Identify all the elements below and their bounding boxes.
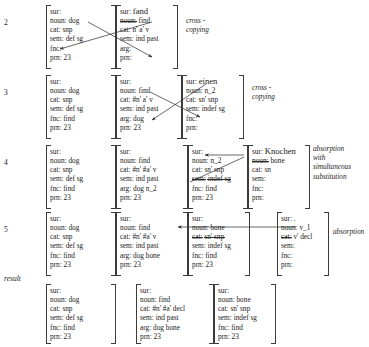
prop-line: sur: (120, 77, 179, 86)
prop-line: sem: def sg (50, 313, 113, 322)
prop-line: cat: sn' snp (192, 232, 247, 241)
proplist-dog[interactable]: sur: noun: dog cat: snp sem: def sg fnc:… (46, 284, 116, 344)
prop-line: sur: fand (120, 7, 175, 16)
prop-line: sur: einen (186, 77, 241, 86)
row-label-result: result (4, 274, 21, 283)
row-number: 4 (4, 158, 8, 167)
prop-line: sem: def sg (50, 174, 113, 183)
proplist-find[interactable]: sur: noun: find cat: #n' #a' v sem: ind … (116, 145, 188, 209)
proplist-n2[interactable]: sur: noun: n_2 cat: sn' snp sem: indef s… (188, 145, 248, 209)
row-note: absorption (333, 228, 364, 237)
prop-line: sem: def sg (50, 34, 113, 43)
prop-line: sem: def sg (50, 241, 113, 250)
prop-line: fnc: find (218, 323, 273, 332)
prop-line: noun: find (140, 295, 211, 304)
prop-line: cat: sn' snp (186, 95, 241, 104)
prop-line: noun: bone (192, 223, 247, 232)
prop-line: fnc: (50, 44, 113, 53)
prop-line: sur: Knochen (252, 147, 307, 156)
prop-line: prn: 23 (120, 193, 185, 202)
prop-line: arg: dog bone (140, 323, 211, 332)
prop-line: arg: dog n_2 (120, 184, 185, 193)
proplist-knochen[interactable]: sur: Knochen noun: bone cat: sn sem: fnc… (248, 145, 310, 209)
prop-line: noun: dog (50, 223, 113, 232)
prop-line: noun: dog (50, 16, 113, 25)
prop-line: sem: indef sg (186, 104, 241, 113)
proplist-find[interactable]: sur: noun: find cat: #n' #a' v sem: ind … (116, 212, 188, 276)
prop-line: noun: dog (50, 295, 113, 304)
prop-line: sur: (50, 7, 113, 16)
prop-line: noun: v_1 (281, 223, 326, 232)
prop-line: prn: 23 (120, 260, 185, 269)
prop-line: sur: (140, 286, 211, 295)
prop-line: prn: 23 (50, 123, 113, 132)
prop-line: sem: ind past (120, 104, 179, 113)
prop-line: fnc: find (50, 251, 113, 260)
proplist-find[interactable]: sur: noun: find cat: #n' a' v sem: ind p… (116, 75, 182, 139)
row-note: cross - copying (186, 17, 209, 35)
prop-line: sem: indef sg (192, 241, 247, 250)
prop-line: prn: (252, 193, 307, 202)
prop-line: cat: v' decl (281, 232, 326, 241)
prop-line: fnc: (252, 184, 307, 193)
prop-line: sur: (192, 147, 245, 156)
prop-line: sem: ind past (120, 34, 175, 43)
prop-line: fnc: (281, 251, 326, 260)
prop-line: cat: snp (50, 304, 113, 313)
prop-line: cat: snp (50, 25, 113, 34)
prop-line: prn: 23 (50, 332, 113, 341)
prop-line: prn: 23 (120, 123, 179, 132)
prop-line: sur: (50, 214, 113, 223)
prop-line: arg: dog bone (120, 251, 185, 260)
prop-line: sem: def sg (50, 104, 113, 113)
prop-line: noun: bone (218, 295, 273, 304)
prop-line: sur: (50, 147, 113, 156)
derivation-figure: 2 sur: noun: dog cat: snp sem: def sg fn… (0, 0, 369, 347)
proplist-fand[interactable]: sur: fand noun: find cat: n' a' v sem: i… (116, 5, 178, 69)
row-number: 3 (4, 88, 8, 97)
prop-line: fnc: find (50, 184, 113, 193)
prop-line: sem: indef sg (218, 313, 273, 322)
prop-line: cat: snp (50, 165, 113, 174)
prop-line: cat: #n' #a' v (120, 232, 185, 241)
prop-line: sur: (120, 147, 185, 156)
proplist-v1[interactable]: sur: . noun: v_1 cat: v' decl sem: fnc: … (277, 212, 329, 276)
prop-line: cat: #n' #a' decl (140, 304, 211, 313)
prop-line: sur: (50, 286, 113, 295)
prop-line: sem: indef sg (192, 174, 245, 183)
prop-line: cat: sn (252, 165, 307, 174)
prop-line: cat: n' a' v (120, 25, 175, 34)
row-number: 5 (4, 225, 8, 234)
prop-line: sur: . (281, 214, 326, 223)
proplist-einen[interactable]: sur: einen noun: n_2 cat: sn' snp sem: i… (182, 75, 244, 139)
prop-line: noun: find (120, 156, 185, 165)
prop-line: noun: n_2 (186, 86, 241, 95)
prop-line: cat: snp (50, 95, 113, 104)
proplist-bone[interactable]: sur: noun: bone cat: sn' snp sem: indef … (188, 212, 250, 276)
proplist-dog[interactable]: sur: noun: dog cat: snp sem: def sg fnc:… (46, 145, 116, 209)
prop-line: arg: dog (120, 114, 179, 123)
proplist-dog[interactable]: sur: noun: dog cat: snp sem: def sg fnc:… (46, 75, 116, 139)
prop-line: arg: (120, 44, 175, 53)
proplist-dog[interactable]: sur: noun: dog cat: snp sem: def sg fnc:… (46, 212, 116, 276)
prop-line: sur: (218, 286, 273, 295)
prop-line: fnc: find (192, 184, 245, 193)
prop-line: prn: 23 (50, 53, 113, 62)
prop-line: prn: (281, 260, 326, 269)
proplist-dog[interactable]: sur: noun: dog cat: snp sem: def sg fnc:… (46, 5, 116, 69)
prop-line: noun: dog (50, 86, 113, 95)
prop-line: cat: #n' #a' v (120, 165, 185, 174)
prop-line: prn: (186, 123, 241, 132)
proplist-find[interactable]: sur: noun: find cat: #n' #a' decl sem: i… (136, 284, 214, 344)
prop-line: prn: 23 (192, 193, 245, 202)
prop-line: sem: ind past (140, 313, 211, 322)
prop-line: fnc: find (50, 114, 113, 123)
prop-line: fnc: (186, 114, 241, 123)
prop-line: cat: sn' snp (218, 304, 273, 313)
prop-line: sem: (252, 174, 307, 183)
proplist-bone[interactable]: sur: noun: bone cat: sn' snp sem: indef … (214, 284, 276, 344)
prop-line: noun: find (120, 223, 185, 232)
prop-line: fnc: find (192, 251, 247, 260)
row-note: absorption with simultaneous substitutio… (313, 145, 351, 182)
prop-line: sur: (50, 77, 113, 86)
